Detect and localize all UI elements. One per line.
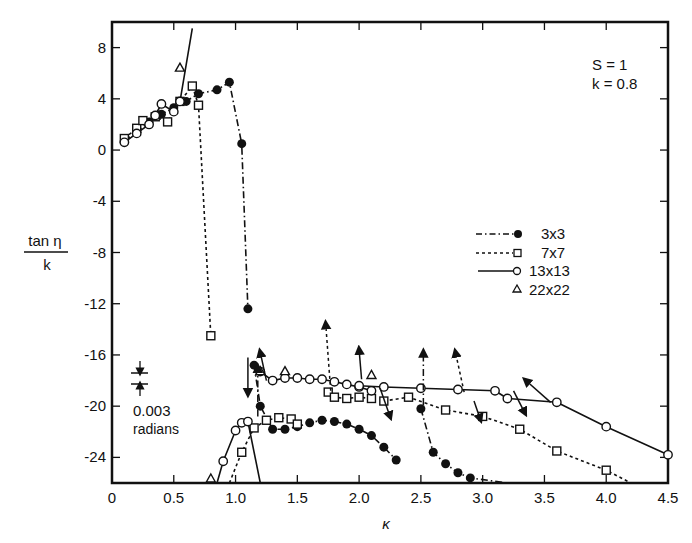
open-square-marker-icon <box>602 466 610 474</box>
x-tick-label: 4.5 <box>658 489 679 506</box>
open-circle-marker-icon <box>133 129 141 137</box>
open-square-marker-icon <box>238 448 246 456</box>
open-circle-marker-icon <box>664 451 672 459</box>
open-circle-marker-icon <box>231 426 239 434</box>
open-square-marker-icon <box>516 425 524 433</box>
open-circle-marker-icon <box>305 375 313 383</box>
filled-circle-marker-icon <box>342 420 351 429</box>
open-square-marker-icon <box>164 118 172 126</box>
open-circle-marker-icon <box>244 417 252 425</box>
y-tick-label: -12 <box>84 295 106 312</box>
svg-text:3x3: 3x3 <box>541 225 565 242</box>
open-square-marker-icon <box>207 332 215 340</box>
x-tick-label: 4.0 <box>596 489 617 506</box>
legend-entry-3x3: 3x3 <box>476 225 565 242</box>
legend-entry-13x13: 13x13 <box>478 262 570 279</box>
open-square-marker-icon <box>553 447 561 455</box>
filled-circle-marker-icon <box>429 448 438 457</box>
open-circle-marker-icon <box>268 376 276 384</box>
open-square-marker-icon <box>250 424 258 432</box>
open-circle-marker-icon <box>514 268 521 275</box>
open-circle-marker-icon <box>151 111 159 119</box>
filled-circle-marker-icon <box>268 425 277 434</box>
filled-circle-marker-icon <box>416 404 425 413</box>
y-axis-title-numerator: tan η <box>28 232 61 249</box>
open-circle-marker-icon <box>318 375 326 383</box>
open-square-marker-icon <box>262 416 270 424</box>
y-tick-label: -8 <box>93 244 106 261</box>
open-square-marker-icon <box>194 101 202 109</box>
open-circle-marker-icon <box>176 97 184 105</box>
chart-canvas: 00.51.01.52.02.53.03.54.04.5 840-4-8-12-… <box>0 0 692 543</box>
x-tick-label: 1.5 <box>287 489 308 506</box>
y-tick-label: -16 <box>84 346 106 363</box>
scale-unit: radians <box>133 421 179 437</box>
open-square-marker-icon <box>405 393 413 401</box>
open-circle-marker-icon <box>503 394 511 402</box>
arrows-layer <box>248 324 551 419</box>
open-circle-marker-icon <box>170 107 178 115</box>
y-tick-label: -24 <box>84 448 106 465</box>
y-tick-label: 4 <box>98 90 106 107</box>
open-square-marker-icon <box>188 82 196 90</box>
filled-circle-marker-icon <box>213 85 222 94</box>
x-tick-label: 3.5 <box>534 489 555 506</box>
open-square-marker-icon <box>343 394 351 402</box>
open-circle-marker-icon <box>367 387 375 395</box>
series-layer <box>120 28 672 483</box>
filled-circle-marker-icon <box>305 418 314 427</box>
open-square-marker-icon <box>293 420 301 428</box>
open-circle-marker-icon <box>553 398 561 406</box>
open-circle-marker-icon <box>120 138 128 146</box>
filled-circle-marker-icon <box>243 304 252 313</box>
filled-circle-marker-icon <box>367 431 376 440</box>
open-triangle-marker-icon <box>367 370 376 378</box>
open-circle-marker-icon <box>145 120 153 128</box>
x-tick-label: 0 <box>108 489 116 506</box>
x-tick-label: 2.5 <box>410 489 431 506</box>
filled-circle-marker-icon <box>280 425 289 434</box>
legend: 3x3 7x7 13x13 22x22 <box>476 225 570 298</box>
x-tick-label: 1.0 <box>225 489 246 506</box>
open-circle-marker-icon <box>491 387 499 395</box>
scale-value: 0.003 <box>133 402 171 419</box>
y-tick-label: -4 <box>93 192 106 209</box>
open-circle-marker-icon <box>454 385 462 393</box>
open-circle-marker-icon <box>219 457 227 465</box>
filled-circle-marker-icon <box>225 78 234 87</box>
y-tick-label: -20 <box>84 397 106 414</box>
open-triangle-marker-icon <box>513 285 521 292</box>
open-circle-marker-icon <box>293 374 301 382</box>
x-axis: 00.51.01.52.02.53.03.54.04.5 <box>108 22 679 506</box>
param-k: k = 0.8 <box>592 75 637 92</box>
filled-circle-marker-icon <box>514 230 522 238</box>
series-13x13 <box>120 28 672 483</box>
open-square-marker-icon <box>275 414 283 422</box>
filled-circle-marker-icon <box>466 473 475 482</box>
legend-entry-22x22: 22x22 <box>513 281 570 298</box>
legend-entry-7x7: 7x7 <box>476 244 565 261</box>
open-triangle-marker-icon <box>175 63 184 71</box>
open-triangle-marker-icon <box>280 367 289 375</box>
svg-text:13x13: 13x13 <box>529 262 570 279</box>
branch-arrow-icon <box>359 350 361 379</box>
scale-indicator: 0.003 radians <box>131 361 179 437</box>
filled-circle-marker-icon <box>441 459 450 468</box>
param-s: S = 1 <box>592 56 627 73</box>
svg-text:22x22: 22x22 <box>529 281 570 298</box>
open-square-marker-icon <box>442 406 450 414</box>
x-axis-title: κ <box>382 515 391 532</box>
branch-arrow-icon <box>514 391 525 413</box>
filled-circle-marker-icon <box>330 417 339 426</box>
filled-circle-marker-icon <box>237 139 246 148</box>
open-circle-marker-icon <box>330 378 338 386</box>
open-circle-marker-icon <box>355 381 363 389</box>
filled-circle-marker-icon <box>453 468 462 477</box>
filled-circle-marker-icon <box>392 455 401 464</box>
x-tick-label: 0.5 <box>163 489 184 506</box>
y-tick-label: 8 <box>98 39 106 56</box>
x-tick-label: 3.0 <box>472 489 493 506</box>
open-square-marker-icon <box>330 393 338 401</box>
y-axis-title-denominator: k <box>43 256 51 273</box>
open-circle-marker-icon <box>602 422 610 430</box>
